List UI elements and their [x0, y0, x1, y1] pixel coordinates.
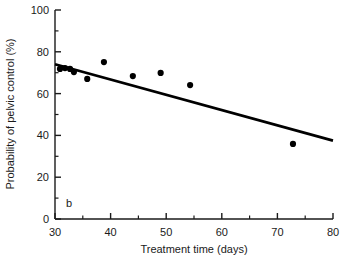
data-point-4: [84, 76, 90, 82]
trend-line-segment: [55, 64, 333, 140]
trend-line: [55, 64, 333, 140]
x-tick-label-60: 60: [216, 226, 228, 238]
x-axis-tick-labels: 304050607080: [49, 226, 339, 238]
panel-label: b: [66, 197, 72, 209]
data-point-5: [101, 59, 107, 65]
data-points: [57, 59, 296, 147]
x-tick-label-30: 30: [49, 226, 61, 238]
x-tick-label-40: 40: [104, 226, 116, 238]
y-tick-label-80: 80: [37, 46, 49, 58]
y-axis-tick-labels: 020406080100: [31, 4, 49, 225]
plot-axes: [55, 10, 333, 219]
chart-figure: 020406080100 304050607080 Probability of…: [0, 0, 347, 258]
data-point-8: [187, 82, 193, 88]
probability-of-pelvic-control-scatter-chart: 020406080100 304050607080 Probability of…: [0, 0, 347, 258]
y-tick-label-20: 20: [37, 171, 49, 183]
x-tick-label-50: 50: [160, 226, 172, 238]
x-tick-label-80: 80: [327, 226, 339, 238]
x-axis-title: Treatment time (days): [140, 243, 247, 255]
data-point-9: [290, 141, 296, 147]
data-point-6: [130, 73, 136, 79]
y-tick-label-40: 40: [37, 129, 49, 141]
y-tick-label-60: 60: [37, 88, 49, 100]
y-tick-label-100: 100: [31, 4, 49, 16]
y-axis-title: Probability of pelvic control (%): [4, 38, 16, 189]
data-point-7: [158, 70, 164, 76]
x-tick-label-70: 70: [271, 226, 283, 238]
y-tick-label-0: 0: [43, 213, 49, 225]
data-point-3: [71, 69, 77, 75]
